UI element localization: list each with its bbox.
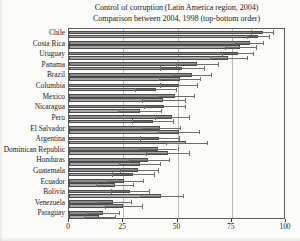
category-label: Chile [0, 28, 65, 39]
error-bar-2004 [155, 117, 190, 118]
error-cap-2004-high [197, 83, 198, 87]
chart-subtitle: Comparison between 2004, 1998 (top-botto… [68, 13, 285, 24]
bar-row [69, 82, 284, 93]
error-bar-1998 [166, 143, 207, 144]
error-cap-2004-high [169, 158, 170, 162]
error-cap-1998-high [183, 194, 184, 198]
bar-row [69, 29, 284, 40]
bar-row [69, 61, 284, 72]
error-cap-1998-high [189, 151, 190, 155]
bar-row [69, 40, 284, 51]
error-cap-1998-high [176, 88, 177, 92]
error-cap-2004-high [218, 62, 219, 66]
error-cap-2004-high [178, 147, 179, 151]
axis-tick-label: 75 [227, 222, 234, 231]
category-label: Honduras [0, 155, 65, 166]
bar-row [69, 146, 284, 157]
error-cap-2004-high [211, 73, 212, 77]
bar-row [69, 50, 284, 61]
error-cap-1998-low [146, 151, 147, 155]
error-cap-2004-high [194, 94, 195, 98]
category-label: Guatemala [0, 166, 65, 177]
error-bar-2004 [140, 138, 179, 139]
value-axis: 0255075100 [68, 219, 285, 239]
error-bar-1998 [225, 47, 255, 48]
error-cap-1998-high [142, 204, 143, 208]
error-bar-1998 [146, 153, 189, 154]
error-bar-2004 [251, 32, 273, 33]
error-cap-1998-low [225, 45, 226, 49]
axis-tick-label: 50 [173, 222, 180, 231]
error-cap-1998-low [159, 77, 160, 81]
error-bar-1998 [210, 58, 247, 59]
bar-row [69, 167, 284, 178]
chart-title-block: Control of corruption (Latin America reg… [68, 2, 285, 24]
error-cap-1998-high [207, 141, 208, 145]
error-cap-1998-high [204, 66, 205, 70]
error-cap-2004-high [263, 41, 264, 45]
error-cap-2004-high [273, 30, 274, 34]
axis-tick-label: 25 [119, 222, 126, 231]
error-bar-2004 [158, 96, 194, 97]
error-cap-1998-high [199, 130, 200, 134]
error-bar-1998 [118, 111, 161, 112]
bar-row [69, 114, 284, 125]
error-bar-2004 [160, 85, 197, 86]
category-axis-labels: ChileCosta RicaUruguayPanamaBrazilColumb… [0, 28, 65, 219]
error-bar-1998 [119, 164, 160, 165]
error-cap-2004-high [143, 179, 144, 183]
bar-row [69, 125, 284, 136]
chart-title: Control of corruption (Latin America reg… [68, 2, 285, 13]
bar-2004 [69, 52, 238, 56]
error-cap-2004-low [155, 115, 156, 119]
error-bar-1998 [159, 79, 200, 80]
error-cap-1998-high [154, 172, 155, 176]
category-label: Costa Rica [0, 39, 65, 50]
error-cap-2004-high [180, 126, 181, 130]
error-bar-2004 [138, 149, 177, 150]
error-bar-1998 [247, 36, 269, 37]
error-bar-1998 [140, 196, 183, 197]
error-cap-2004-high [185, 105, 186, 109]
category-label: Nicaragua [0, 102, 65, 113]
error-cap-1998-low [132, 119, 133, 123]
category-label: Peru [0, 113, 65, 124]
error-cap-1998-low [160, 66, 161, 70]
error-cap-1998-low [135, 88, 136, 92]
error-cap-1998-high [256, 45, 257, 49]
error-cap-1998-high [161, 109, 162, 113]
plot-area [68, 28, 285, 219]
bar-2004 [69, 31, 263, 35]
error-cap-1998-low [105, 204, 106, 208]
error-bar-2004 [144, 106, 185, 107]
error-cap-1998-low [112, 172, 113, 176]
error-cap-1998-high [200, 77, 201, 81]
category-label: Paraguay [0, 208, 65, 219]
bar-row [69, 178, 284, 189]
axis-tick-label: 100 [279, 222, 290, 231]
error-cap-2004-low [160, 83, 161, 87]
bar-row [69, 188, 284, 199]
error-cap-1998-low [210, 56, 211, 60]
bar-1998 [69, 35, 258, 39]
bar-row [69, 71, 284, 82]
category-label: Columbia [0, 81, 65, 92]
error-cap-1998-low [119, 162, 120, 166]
error-bar-2004 [235, 43, 263, 44]
error-bar-2004 [120, 170, 158, 171]
error-bar-2004 [128, 160, 169, 161]
error-bar-1998 [132, 121, 173, 122]
error-cap-2004-high [189, 115, 190, 119]
error-bar-2004 [176, 64, 217, 65]
category-label: Mexico [0, 92, 65, 103]
axis-tick-label: 0 [66, 222, 70, 231]
category-label: Ecuador [0, 177, 65, 188]
bar-1998 [69, 56, 228, 60]
bar-row [69, 135, 284, 146]
chart-figure: Control of corruption (Latin America reg… [0, 0, 300, 241]
category-label: Venezuela [0, 198, 65, 209]
error-bar-2004 [222, 53, 253, 54]
error-bar-2004 [141, 128, 180, 129]
error-bar-2004 [172, 75, 211, 76]
error-cap-1998-high [185, 98, 186, 102]
